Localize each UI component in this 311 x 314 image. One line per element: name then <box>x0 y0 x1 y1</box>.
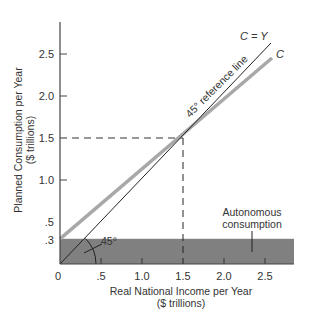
autonomous-label-line2: consumption <box>222 218 282 230</box>
autonomous-label-line1: Autonomous <box>223 206 282 218</box>
c-line-label: C <box>276 48 284 60</box>
svg-text:1.0: 1.0 <box>134 270 149 282</box>
svg-text:2.0: 2.0 <box>216 270 231 282</box>
y-axis-title: Planned Consumption per Year <box>12 67 24 213</box>
svg-text:2.5: 2.5 <box>39 48 54 60</box>
x-axis-title: Real National Income per Year <box>110 285 253 297</box>
svg-text:.3: .3 <box>45 234 54 246</box>
x-tick-labels: 0 .5 1.0 1.5 2.0 2.5 <box>55 270 273 282</box>
consumption-function-chart: 45° 2.5 2.0 1.5 1.0 .5 .3 0 .5 1.0 1.5 2… <box>0 0 311 314</box>
svg-text:0: 0 <box>55 270 61 282</box>
y-tick-labels: 2.5 2.0 1.5 1.0 .5 .3 <box>39 48 54 246</box>
svg-text:1.5: 1.5 <box>39 132 54 144</box>
cy-line-label: C = Y <box>240 30 268 42</box>
x-axis-subtitle: ($ trillions) <box>157 297 205 309</box>
y-axis-subtitle: ($ trillions) <box>24 116 36 164</box>
svg-text:1.0: 1.0 <box>39 174 54 186</box>
svg-text:.5: .5 <box>96 270 105 282</box>
y-axis-ticks <box>60 54 67 180</box>
angle-label: 45° <box>101 235 117 247</box>
45-degree-reference-line <box>60 43 271 264</box>
svg-text:2.5: 2.5 <box>257 270 272 282</box>
svg-text:.5: .5 <box>45 216 54 228</box>
svg-text:2.0: 2.0 <box>39 90 54 102</box>
autonomous-consumption-band <box>60 239 294 264</box>
svg-text:1.5: 1.5 <box>175 270 190 282</box>
